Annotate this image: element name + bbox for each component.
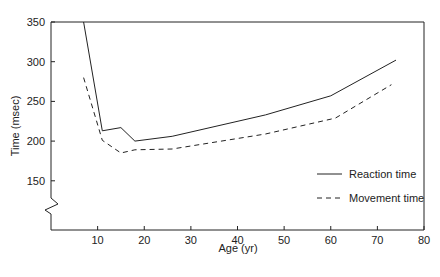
x-tick-label: 50 [278, 234, 290, 246]
x-tick-label: 60 [325, 234, 337, 246]
movement-time-line [84, 78, 392, 153]
x-tick-label: 70 [371, 234, 383, 246]
legend-label-movement-time: Movement time [349, 192, 424, 204]
y-tick-label: 300 [27, 56, 45, 68]
y-tick-label: 350 [27, 16, 45, 28]
ticks: 1502002503003501020304050607080 [27, 16, 430, 246]
legend: Reaction time Movement time [317, 168, 424, 204]
legend-label-reaction-time: Reaction time [349, 168, 416, 180]
y-tick-label: 150 [27, 175, 45, 187]
x-tick-label: 30 [185, 234, 197, 246]
series-lines [84, 22, 396, 153]
reaction-time-line [84, 22, 396, 141]
y-axis-label: Time (msec) [9, 96, 21, 157]
y-tick-label: 250 [27, 95, 45, 107]
x-tick-label: 80 [418, 234, 430, 246]
y-axis-with-break [45, 22, 58, 230]
y-tick-label: 200 [27, 135, 45, 147]
x-tick-label: 10 [92, 234, 104, 246]
line-chart: 1502002503003501020304050607080 Age (yr)… [0, 0, 440, 277]
x-tick-label: 20 [138, 234, 150, 246]
x-axis-label: Age (yr) [218, 242, 257, 254]
